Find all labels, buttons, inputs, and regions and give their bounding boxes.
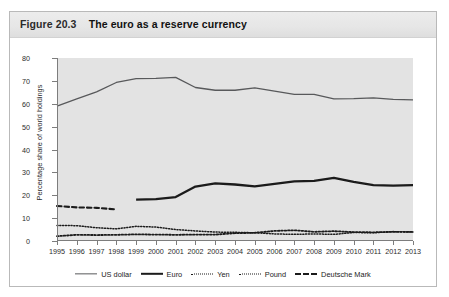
chart-area: Percentage share of world holdings 01020… [10, 38, 436, 288]
x-axis-tick-mark [314, 241, 315, 245]
x-axis-tick-mark [354, 241, 355, 245]
y-axis-tick-label: 30 [0, 168, 30, 177]
x-axis-tick-label: 1996 [69, 247, 85, 256]
x-axis-tick-mark [156, 241, 157, 245]
x-axis-tick-label: 2009 [326, 247, 342, 256]
x-axis-tick-mark [255, 241, 256, 245]
figure-number: Figure 20.3 [20, 18, 77, 30]
legend-item-us-dollar[interactable]: US dollar [75, 270, 131, 279]
x-axis-tick-label: 2012 [385, 247, 401, 256]
x-axis-tick-mark [334, 241, 335, 245]
series-line-deutsche-mark [57, 206, 116, 209]
figure-title-band: Figure 20.3 The euro as a reserve curren… [10, 12, 436, 38]
x-axis-tick-label: 2001 [168, 247, 184, 256]
chart-lines [57, 58, 413, 241]
x-axis-tick-mark [77, 241, 78, 245]
x-axis-tick-mark [136, 241, 137, 245]
x-axis-tick-label: 2011 [366, 247, 381, 256]
series-line-us-dollar [57, 77, 413, 106]
x-axis-tick-mark [393, 241, 394, 245]
x-axis-tick-mark [373, 241, 374, 245]
figure-title: Figure 20.3 The euro as a reserve curren… [20, 18, 247, 30]
legend-label: Yen [217, 270, 229, 279]
legend-swatch-icon [295, 271, 317, 278]
y-axis-tick-label: 10 [0, 214, 30, 223]
x-axis-tick-mark [176, 241, 177, 245]
legend-swatch-icon [75, 271, 97, 278]
legend-swatch-icon [239, 271, 261, 278]
x-axis-tick-mark [97, 241, 98, 245]
x-axis-tick-label: 2008 [306, 247, 322, 256]
x-axis-tick-mark [215, 241, 216, 245]
x-axis-tick-label: 1997 [89, 247, 105, 256]
x-axis-tick-label: 1995 [49, 247, 65, 256]
x-axis-tick-mark [275, 241, 276, 245]
x-axis-tick-label: 2005 [247, 247, 263, 256]
x-axis-tick-label: 1998 [108, 247, 124, 256]
x-axis-tick-label: 2004 [227, 247, 243, 256]
y-axis-tick-label: 50 [0, 122, 30, 131]
x-axis-tick-label: 2003 [207, 247, 223, 256]
legend-label: US dollar [101, 270, 131, 279]
x-axis-tick-mark [413, 241, 414, 245]
x-axis-tick-label: 2002 [187, 247, 203, 256]
legend-item-pound[interactable]: Pound [239, 270, 286, 279]
x-axis-tick-label: 2000 [148, 247, 164, 256]
legend-item-yen[interactable]: Yen [191, 270, 229, 279]
x-axis-tick-mark [195, 241, 196, 245]
y-axis-tick-label: 0 [0, 237, 30, 246]
plot-area [57, 58, 413, 241]
y-axis-tick-label: 80 [0, 54, 30, 63]
x-axis-tick-mark [294, 241, 295, 245]
y-axis-tick-label: 60 [0, 99, 30, 108]
x-axis-tick-mark [235, 241, 236, 245]
legend-label: Deutsche Mark [321, 270, 371, 279]
series-line-euro [136, 178, 413, 200]
x-axis-tick-label: 2007 [286, 247, 302, 256]
y-axis-tick-label: 70 [0, 76, 30, 85]
y-axis-label: Percentage share of world holdings [35, 63, 44, 223]
y-axis-tick-label: 40 [0, 145, 30, 154]
x-axis-tick-label: 2010 [346, 247, 362, 256]
figure-title-text: The euro as a reserve currency [89, 18, 247, 30]
legend-swatch-icon [191, 271, 213, 278]
legend-label: Pound [265, 270, 286, 279]
legend-item-deutsche-mark[interactable]: Deutsche Mark [295, 270, 371, 279]
legend-label: Euro [167, 270, 183, 279]
y-axis-tick-label: 20 [0, 191, 30, 200]
legend-swatch-icon [141, 271, 163, 278]
x-axis-tick-mark [57, 241, 58, 245]
chart-legend: US dollarEuroYenPoundDeutsche Mark [10, 266, 436, 282]
x-axis-tick-label: 1999 [128, 247, 144, 256]
legend-item-euro[interactable]: Euro [141, 270, 183, 279]
x-axis-tick-mark [116, 241, 117, 245]
figure-card: Figure 20.3 The euro as a reserve curren… [9, 11, 437, 287]
x-axis-tick-label: 2006 [267, 247, 283, 256]
x-axis-tick-label: 2013 [405, 247, 421, 256]
